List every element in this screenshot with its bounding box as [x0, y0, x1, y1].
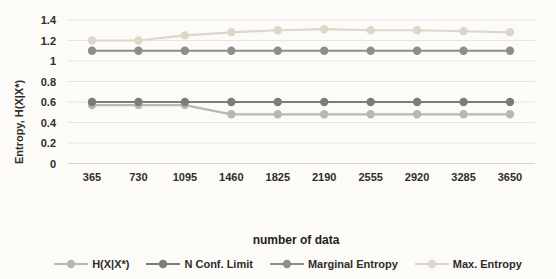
legend-marker-icon [415, 259, 449, 269]
y-tick-label: 0.2 [41, 137, 56, 149]
data-point-n_conf_limit [227, 98, 235, 106]
x-tick-label: 3285 [451, 171, 475, 183]
data-point-max_entropy [459, 27, 467, 35]
legend-label: H(X|X*) [92, 258, 129, 270]
data-point-max_entropy [506, 28, 514, 36]
x-tick-label: 365 [83, 171, 101, 183]
series-line-max_entropy [92, 29, 510, 40]
data-point-marginal_entropy [366, 47, 374, 55]
data-point-h_xix [274, 110, 282, 118]
x-tick-label: 1460 [219, 171, 243, 183]
data-point-n_conf_limit [88, 98, 96, 106]
y-tick-label: 0.8 [41, 76, 56, 88]
legend-marker-icon [270, 259, 304, 269]
data-point-max_entropy [88, 36, 96, 44]
x-axis-title: number of data [36, 233, 556, 247]
data-point-n_conf_limit [506, 98, 514, 106]
y-axis-title: Entropy, H(X|X*) [13, 80, 25, 164]
x-tick-label: 2190 [312, 171, 336, 183]
legend-label: Max. Entropy [453, 258, 522, 270]
y-tick-label: 1 [50, 55, 56, 67]
data-point-marginal_entropy [227, 47, 235, 55]
x-tick-label: 1095 [173, 171, 197, 183]
y-tick-label: 0.4 [41, 117, 57, 129]
data-point-marginal_entropy [88, 47, 96, 55]
x-tick-label: 730 [129, 171, 147, 183]
legend-item-h_xix: H(X|X*) [54, 258, 129, 270]
data-point-n_conf_limit [366, 98, 374, 106]
series-line-h_xix [92, 105, 510, 114]
y-tick-label: 1.2 [41, 35, 56, 47]
y-tick-label: 0 [50, 158, 56, 170]
legend-item-n_conf_limit: N Conf. Limit [146, 258, 252, 270]
data-point-n_conf_limit [413, 98, 421, 106]
data-point-marginal_entropy [181, 47, 189, 55]
legend-marker-icon [146, 259, 180, 269]
data-point-max_entropy [181, 31, 189, 39]
x-tick-label: 2920 [405, 171, 429, 183]
data-point-n_conf_limit [181, 98, 189, 106]
data-point-marginal_entropy [506, 47, 514, 55]
data-point-max_entropy [227, 28, 235, 36]
legend-item-marginal_entropy: Marginal Entropy [270, 258, 398, 270]
data-point-h_xix [506, 110, 514, 118]
entropy-chart: 00.20.40.60.811.21.436573010951460182521… [0, 0, 556, 279]
legend-label: Marginal Entropy [308, 258, 398, 270]
data-point-max_entropy [320, 25, 328, 33]
data-point-n_conf_limit [274, 98, 282, 106]
data-point-marginal_entropy [134, 47, 142, 55]
data-point-n_conf_limit [134, 98, 142, 106]
data-point-max_entropy [413, 26, 421, 34]
data-point-n_conf_limit [320, 98, 328, 106]
legend: H(X|X*)N Conf. LimitMarginal EntropyMax.… [20, 258, 556, 270]
legend-marker-icon [54, 259, 88, 269]
data-point-h_xix [366, 110, 374, 118]
x-tick-label: 2555 [358, 171, 382, 183]
data-point-max_entropy [134, 36, 142, 44]
data-point-marginal_entropy [274, 47, 282, 55]
data-point-marginal_entropy [320, 47, 328, 55]
legend-item-max_entropy: Max. Entropy [415, 258, 522, 270]
x-tick-label: 1825 [266, 171, 290, 183]
y-tick-label: 1.4 [41, 14, 57, 26]
x-tick-label: 3650 [498, 171, 522, 183]
data-point-h_xix [227, 110, 235, 118]
data-point-marginal_entropy [413, 47, 421, 55]
data-point-max_entropy [274, 26, 282, 34]
data-point-marginal_entropy [459, 47, 467, 55]
data-point-h_xix [413, 110, 421, 118]
data-point-h_xix [459, 110, 467, 118]
legend-label: N Conf. Limit [184, 258, 252, 270]
data-point-h_xix [320, 110, 328, 118]
data-point-max_entropy [366, 26, 374, 34]
data-point-n_conf_limit [459, 98, 467, 106]
y-tick-label: 0.6 [41, 96, 56, 108]
